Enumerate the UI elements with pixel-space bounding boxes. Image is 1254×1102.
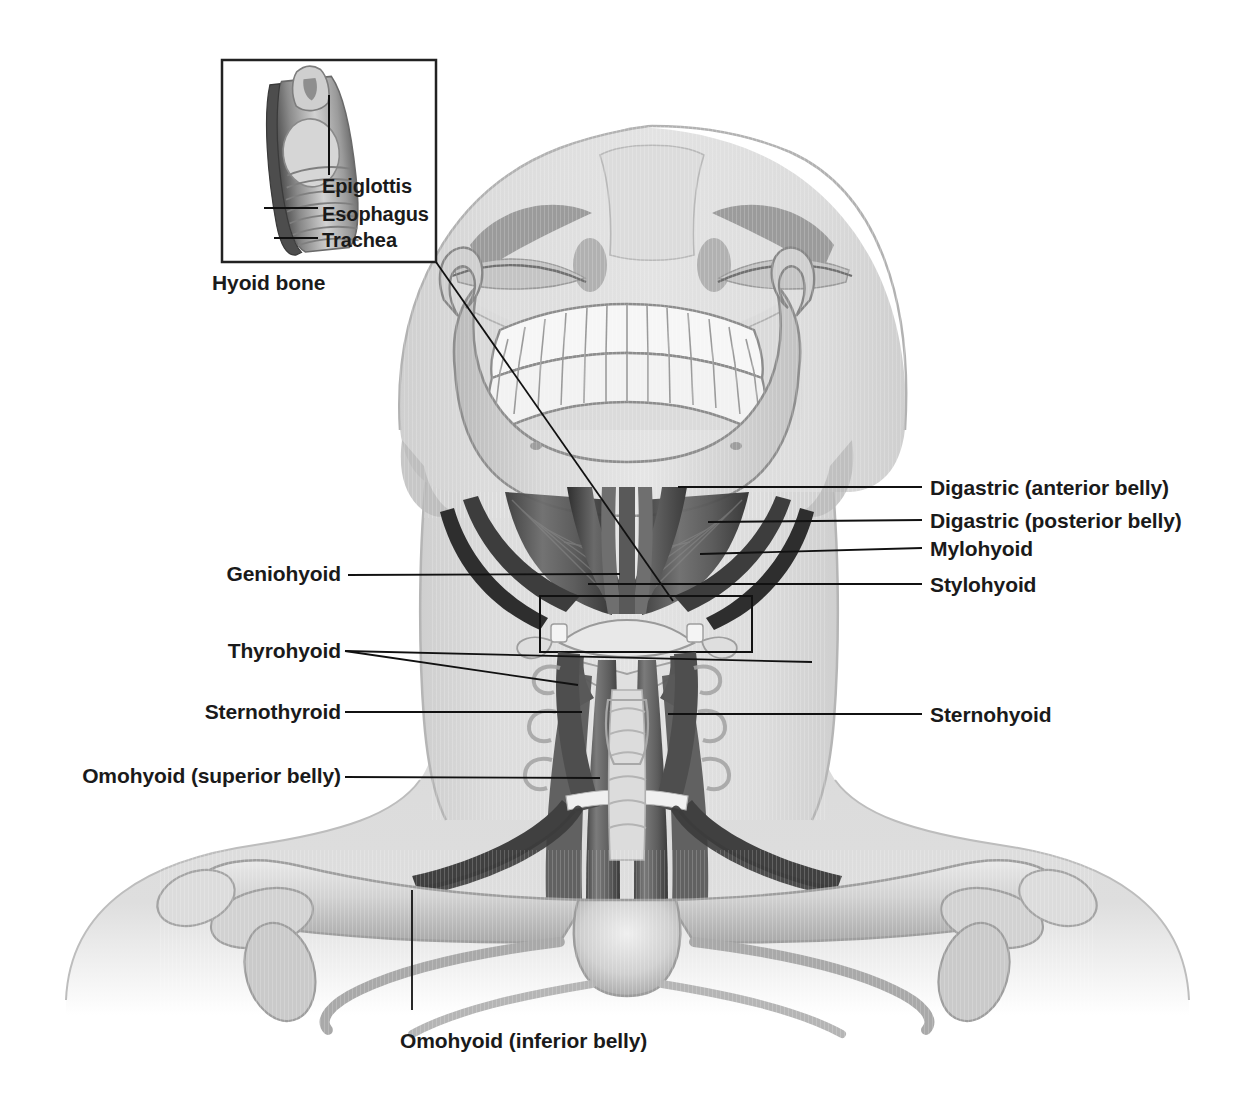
figure-canvas: Epiglottis Esophagus Trachea Hyoid bone … <box>0 0 1254 1102</box>
label-omohyoid-inferior-belly: Omohyoid (inferior belly) <box>400 1030 647 1051</box>
label-thyrohyoid: Thyrohyoid <box>228 640 341 661</box>
label-geniohyoid: Geniohyoid <box>226 563 341 584</box>
label-digastric-anterior-belly: Digastric (anterior belly) <box>930 477 1169 498</box>
trachea-larynx <box>606 690 648 860</box>
anatomy-illustration <box>0 0 1254 1102</box>
label-stylohyoid: Stylohyoid <box>930 574 1036 595</box>
inset-label-esophagus: Esophagus <box>322 204 429 224</box>
leader-omohyoid-superior <box>345 777 600 778</box>
label-mylohyoid: Mylohyoid <box>930 538 1033 559</box>
label-sternothyroid: Sternothyroid <box>205 701 341 722</box>
label-digastric-posterior-belly: Digastric (posterior belly) <box>930 510 1182 531</box>
inset-caption-hyoid-bone: Hyoid bone <box>212 272 325 293</box>
leader-geniohyoid <box>348 574 620 575</box>
inset-label-trachea: Trachea <box>322 230 397 250</box>
skull-head <box>399 126 906 518</box>
shoulder-girdle <box>150 850 1105 1050</box>
label-sternohyoid: Sternohyoid <box>930 704 1051 725</box>
label-omohyoid-superior-belly: Omohyoid (superior belly) <box>82 765 341 786</box>
inset-label-epiglottis: Epiglottis <box>322 176 412 196</box>
